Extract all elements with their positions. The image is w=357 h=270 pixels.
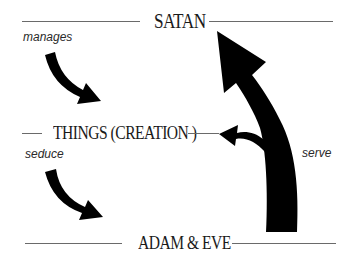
things-branch-arrow-icon	[219, 125, 265, 152]
arrows-layer	[0, 0, 357, 270]
seduce-arrow-icon	[45, 169, 103, 220]
diagram-canvas: SATAN manages THINGS (CREATION ) seduce …	[0, 0, 357, 270]
manages-arrow-icon	[45, 52, 101, 104]
